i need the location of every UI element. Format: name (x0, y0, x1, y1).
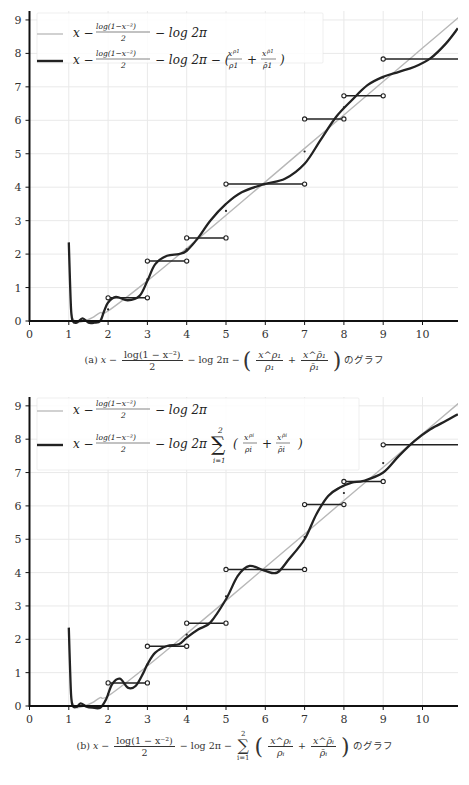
x-tick-label: 3 (144, 713, 151, 726)
svg-text:∑: ∑ (211, 432, 226, 456)
chart-a: 0123456789100123456789 x − log(1−x⁻²) 2 … (0, 0, 469, 345)
svg-text:(: ( (233, 437, 238, 451)
y-tick-label: 9 (15, 14, 22, 27)
caption-paren-close: ) (333, 348, 342, 373)
y-tick-label: 3 (15, 215, 22, 228)
caption-log2pi: − log 2π − (188, 354, 240, 365)
caption-log2pi: − log 2π − (180, 740, 232, 751)
caption-paren-close: ) (341, 734, 350, 759)
caption-suffix: のグラフ (353, 740, 393, 751)
y-tick-label: 0 (15, 315, 22, 328)
svg-text:ρ̄i: ρ̄i (281, 432, 287, 439)
caption-fraction-rho: x^ρ₁ρ₁ (256, 349, 283, 372)
svg-text:log(1−x⁻²): log(1−x⁻²) (96, 22, 136, 31)
caption-fraction-rho: x^ρᵢρᵢ (268, 735, 293, 758)
x-tick-label: 9 (380, 328, 387, 341)
svg-text:+: + (262, 437, 272, 451)
x-tick-label: 7 (301, 713, 308, 726)
y-tick-label: 4 (15, 181, 22, 194)
svg-text:2: 2 (120, 34, 126, 43)
y-tick-label: 6 (15, 500, 22, 513)
x-tick-label: 1 (65, 713, 72, 726)
svg-text:ρ̄1: ρ̄1 (266, 48, 274, 55)
x-tick-label: 9 (380, 713, 387, 726)
svg-text:x −: x − (73, 437, 94, 451)
svg-text:ρ1: ρ1 (232, 48, 240, 55)
x-tick-label: 1 (65, 328, 72, 341)
svg-text:): ) (279, 53, 285, 67)
x-tick-label: 5 (223, 713, 230, 726)
y-tick-label: 8 (15, 47, 22, 60)
x-tick-label: 3 (144, 328, 151, 341)
caption-fraction-log: log(1 − x⁻²)2 (114, 735, 174, 758)
x-tick-label: 5 (223, 328, 230, 341)
y-tick-label: 9 (15, 400, 22, 413)
x-tick-label: 10 (416, 328, 430, 341)
svg-text:ρ1: ρ1 (228, 61, 238, 70)
caption-op: − (101, 740, 109, 751)
svg-text:− log 2π: − log 2π (155, 403, 208, 417)
figure-a: 0123456789100123456789 x − log(1−x⁻²) 2 … (0, 0, 469, 385)
y-tick-label: 4 (15, 567, 22, 580)
y-tick-label: 5 (15, 533, 22, 546)
caption-suffix: のグラフ (344, 354, 384, 365)
y-tick-label: 1 (15, 667, 22, 680)
chart-b: 0123456789100123456789 x − log(1−x⁻²) 2 … (0, 385, 469, 730)
caption-paren-open: ( (255, 734, 264, 759)
y-tick-label: 7 (15, 467, 22, 480)
y-tick-label: 5 (15, 148, 22, 161)
svg-text:ρ̄1: ρ̄1 (262, 61, 272, 70)
caption-fraction-log: log(1 − x⁻²)2 (122, 349, 182, 372)
x-tick-label: 2 (105, 713, 112, 726)
x-tick-label: 6 (262, 328, 269, 341)
approximation-curve (69, 28, 458, 323)
y-tick-label: 7 (15, 81, 22, 94)
y-tick-label: 2 (15, 633, 22, 646)
x-tick-label: 2 (105, 328, 112, 341)
svg-text:2: 2 (120, 411, 126, 420)
y-tick-label: 8 (15, 433, 22, 446)
svg-text:i=1: i=1 (213, 457, 226, 465)
caption-var: x (101, 354, 106, 365)
svg-text:ρi: ρi (244, 445, 252, 454)
svg-text:2: 2 (120, 445, 126, 454)
svg-text:): ) (297, 437, 303, 451)
caption-plus: + (298, 740, 306, 751)
legend: x − log(1−x⁻²) 2 − log 2π x − log(1−x⁻²)… (37, 398, 359, 470)
x-tick-label: 8 (340, 328, 347, 341)
y-tick-label: 1 (15, 282, 22, 295)
svg-text:+: + (247, 53, 257, 67)
svg-text:ρ̄i: ρ̄i (277, 445, 285, 454)
x-tick-label: 7 (301, 328, 308, 341)
svg-text:2: 2 (120, 61, 126, 70)
caption-summation: 2∑i=1 (237, 730, 250, 762)
x-tick-label: 6 (262, 713, 269, 726)
y-tick-label: 6 (15, 114, 22, 127)
figure-b: 0123456789100123456789 x − log(1−x⁻²) 2 … (0, 385, 469, 785)
caption-label: (a) (85, 354, 98, 365)
x-tick-label: 0 (26, 713, 33, 726)
x-tick-label: 4 (183, 328, 190, 341)
x-tick-label: 10 (416, 713, 430, 726)
caption-fraction-rho-bar: x^ρ̄₁ρ̄₁ (301, 349, 328, 372)
y-tick-label: 2 (15, 248, 22, 261)
caption-paren-open: ( (243, 348, 252, 373)
svg-text:− log 2π − (: − log 2π − ( (155, 53, 230, 67)
x-tick-label: 8 (340, 713, 347, 726)
x-tick-label: 0 (26, 328, 33, 341)
caption-a: (a) x − log(1 − x⁻²)2 − log 2π − ( x^ρ₁ρ… (0, 348, 469, 373)
y-tick-label: 3 (15, 600, 22, 613)
caption-plus: + (288, 354, 296, 365)
svg-text:− log 2π: − log 2π (155, 26, 208, 40)
caption-op: − (109, 354, 117, 365)
svg-text:log(1−x⁻²): log(1−x⁻²) (96, 399, 136, 408)
caption-label: (b) (76, 740, 90, 751)
svg-text:log(1−x⁻²): log(1−x⁻²) (96, 49, 136, 58)
svg-text:log(1−x⁻²): log(1−x⁻²) (96, 433, 136, 442)
caption-fraction-rho-bar: x^ρ̄ᵢρ̄ᵢ (311, 735, 336, 758)
svg-text:ρi: ρi (248, 432, 254, 439)
svg-text:x −: x − (73, 53, 94, 67)
caption-var: x (93, 740, 98, 751)
svg-text:x −: x − (73, 403, 94, 417)
x-tick-label: 4 (183, 713, 190, 726)
